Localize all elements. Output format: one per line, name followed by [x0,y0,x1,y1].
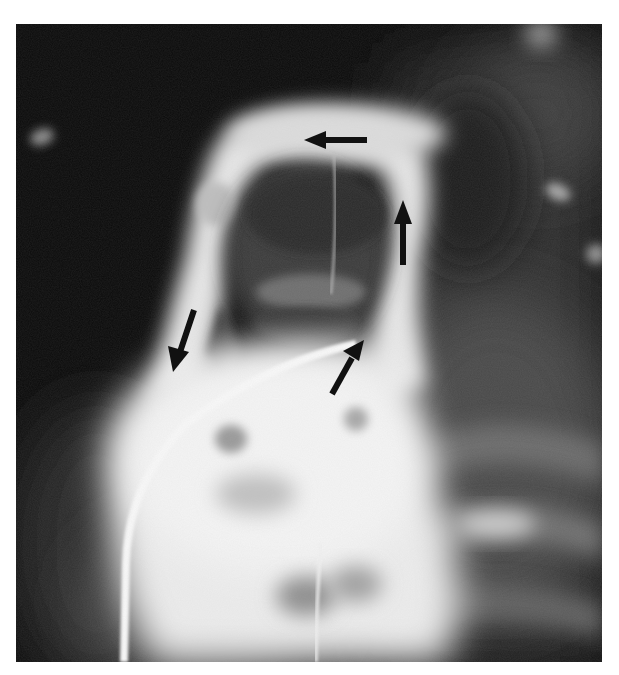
film-grain [16,24,602,662]
radiograph-svg [16,24,602,662]
radiograph-image [16,24,602,662]
